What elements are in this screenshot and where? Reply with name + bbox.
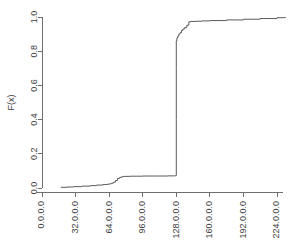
y-tick-label: 1.0 xyxy=(29,11,39,24)
x-tick-label: 32.0.0.0 xyxy=(70,201,80,234)
y-axis-title: F(x) xyxy=(6,95,16,111)
y-tick-label: 0.6 xyxy=(29,79,39,92)
x-tick-label: 128.0.0.0 xyxy=(171,201,181,239)
x-tick-label: 224.0.0.0 xyxy=(271,201,281,239)
x-tick-label: 64.0.0.0 xyxy=(104,201,114,234)
x-axis: 0.0.0.032.0.0.064.0.0.096.0.0.0128.0.0.0… xyxy=(36,192,283,239)
ecdf-line xyxy=(61,17,286,187)
ecdf-series xyxy=(61,17,286,187)
ecdf-chart: 0.00.20.40.60.81.0 0.0.0.032.0.0.064.0.0… xyxy=(0,0,290,247)
plot-area: 0.00.20.40.60.81.0 0.0.0.032.0.0.064.0.0… xyxy=(0,0,290,247)
x-tick-label: 96.0.0.0 xyxy=(137,201,147,234)
y-tick-label: 0.4 xyxy=(29,113,39,126)
y-tick-label: 0.2 xyxy=(29,148,39,161)
x-tick-label: 0.0.0.0 xyxy=(36,201,46,229)
x-tick-label: 160.0.0.0 xyxy=(204,201,214,239)
x-tick-label: 192.0.0.0 xyxy=(238,201,248,239)
y-axis-title-text: F(x) xyxy=(6,95,16,111)
y-tick-label: 0.8 xyxy=(29,45,39,58)
y-axis: 0.00.20.40.60.81.0 xyxy=(29,11,42,195)
